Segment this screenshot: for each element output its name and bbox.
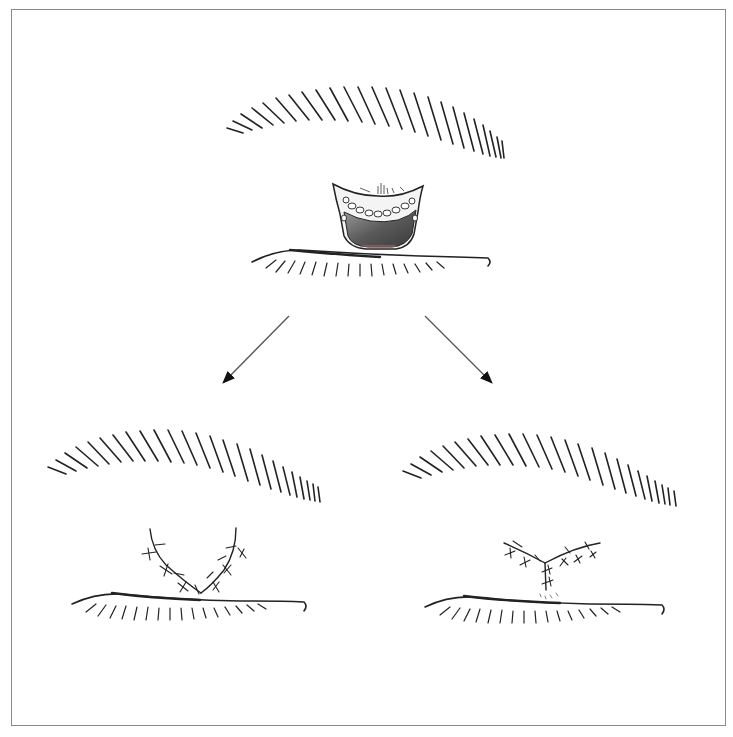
bottom-left-eyebrow bbox=[48, 430, 320, 502]
top-eyebrow bbox=[227, 87, 504, 158]
bottom-right-eyebrow bbox=[403, 434, 676, 506]
top-lower-lid bbox=[252, 250, 490, 276]
bottom-left-v-suture bbox=[142, 528, 246, 594]
arrow-left bbox=[224, 316, 289, 382]
bottom-right-lower-lid bbox=[425, 596, 664, 623]
bottom-left-lower-lid bbox=[72, 593, 306, 620]
surgical-diagram bbox=[0, 0, 733, 737]
bottom-right-y-suture bbox=[504, 541, 600, 599]
arrow-right bbox=[425, 316, 491, 382]
top-eyelid-defect bbox=[333, 183, 423, 249]
